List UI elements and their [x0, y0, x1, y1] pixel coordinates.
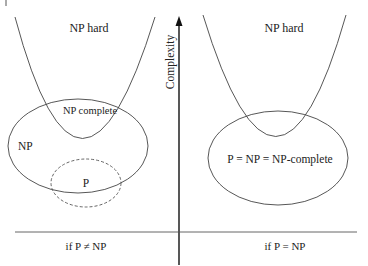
caption-left: if P ≠ NP	[66, 240, 107, 252]
caption-right: if P = NP	[265, 240, 306, 252]
right-panel: NP hard P = NP = NP-complete if P = NP	[203, 15, 348, 252]
complexity-axis: Complexity	[164, 16, 183, 265]
complexity-diagram: NP hard NP complete NP P if P ≠ NP Compl…	[0, 0, 368, 266]
np-complete-label: NP complete	[63, 105, 117, 116]
merged-label: P = NP = NP-complete	[227, 153, 332, 166]
np-hard-label-right: NP hard	[264, 21, 303, 35]
np-hard-curve-left	[15, 17, 155, 139]
np-hard-label-left: NP hard	[69, 21, 108, 35]
axis-arrowhead-icon	[176, 16, 183, 26]
p-label: P	[83, 177, 89, 189]
left-panel: NP hard NP complete NP P if P ≠ NP	[8, 17, 155, 252]
np-label: NP	[18, 140, 33, 152]
axis-label: Complexity	[164, 35, 177, 90]
